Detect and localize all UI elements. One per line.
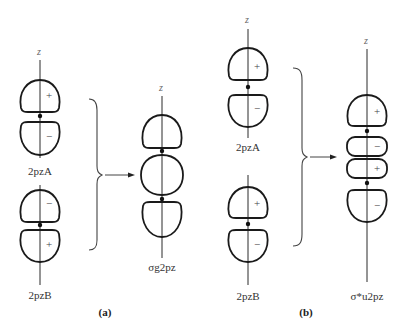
arrow-head-icon [128, 173, 135, 178]
arrow-head-icon [330, 155, 337, 160]
orbital-sigma-star-u-2pz: z + − + − σ*u2pz [347, 35, 387, 302]
nucleus-dot [246, 85, 250, 89]
nucleus-dot [160, 197, 164, 201]
sign-upper: − [46, 197, 52, 209]
sign-upper: + [254, 197, 260, 209]
panel-a: z + − 2pzA − + 2pzB z [20, 46, 183, 319]
orbital-label: 2pzA [28, 165, 52, 177]
combination-brace [293, 68, 307, 246]
sign-upper: + [254, 60, 260, 72]
sign-lower: − [46, 130, 52, 142]
nucleus-dot [365, 129, 369, 133]
orbital-label: 2pzA [236, 141, 260, 153]
nucleus-dot [365, 181, 369, 185]
sign-lower: + [46, 238, 52, 250]
nucleus-dot [38, 223, 42, 227]
orbital-label: σg2pz [148, 261, 175, 273]
sign-3: + [374, 162, 380, 174]
sign-4: − [374, 199, 380, 211]
orbital-label: 2pzB [236, 290, 259, 302]
sign-lower: − [254, 238, 260, 250]
z-axis-label: z [363, 35, 368, 46]
orbital-2pzA-a: z + − 2pzA [20, 46, 59, 177]
sign-2: − [374, 140, 380, 152]
mo-diagram: z + − 2pzA − + 2pzB z [0, 0, 407, 331]
orbital-label: 2pzB [28, 289, 51, 301]
sign-upper: + [46, 89, 52, 101]
panel-b: z + − 2pzA + − 2pzB z + [228, 14, 387, 319]
sign-lower: − [254, 102, 260, 114]
z-axis-label: z [36, 46, 41, 57]
nucleus-dot [160, 149, 164, 153]
z-axis-label: z [158, 82, 163, 93]
z-axis-label: z [244, 14, 249, 25]
orbital-sigma-g-2pz: z σg2pz [141, 82, 183, 273]
orbital-label: σ*u2pz [351, 290, 384, 302]
orbital-2pzA-b: z + − 2pzA [228, 14, 267, 153]
sign-1: + [374, 105, 380, 117]
orbital-2pzB-b: + − 2pzB [228, 175, 267, 302]
panel-caption: (a) [99, 306, 112, 319]
nucleus-dot [246, 222, 250, 226]
orbital-2pzB-a: − + 2pzB [20, 185, 59, 301]
combination-brace [89, 99, 102, 250]
panel-caption: (b) [299, 306, 313, 319]
nucleus-dot [38, 114, 42, 118]
